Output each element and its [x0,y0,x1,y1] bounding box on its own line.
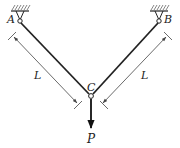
label-a: A [6,13,15,26]
label-p: P [86,132,96,146]
label-l-left: L [33,69,41,82]
hatch-b [151,5,169,10]
member-ac [21,23,89,94]
label-l-right: L [140,69,148,82]
member-bc [93,23,158,94]
label-b: B [163,13,172,26]
dimension-left [8,32,82,109]
pin-c [89,94,94,99]
truss-diagram: A B C L L P [0,0,180,148]
label-c: C [87,81,96,94]
dimension-right [100,32,172,109]
hatch-a [12,5,30,10]
